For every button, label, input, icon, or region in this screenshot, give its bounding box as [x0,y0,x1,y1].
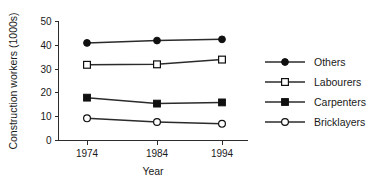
data-point [154,61,161,68]
legend-item-labourers[interactable]: Labourers [265,76,361,88]
x-axis-title: Year [142,165,164,177]
series-labourers [84,56,226,68]
x-axis-ticks: 197419841994 [76,141,234,159]
data-point [154,119,161,126]
y-axis-title: Construction workers (1000s) [7,12,19,149]
data-point [219,56,226,63]
data-point [84,61,91,68]
data-point [154,100,161,107]
data-point [219,36,226,43]
legend-marker [282,79,289,86]
y-tick-label: 40 [40,40,52,51]
y-axis-ticks: 01020304050 [40,16,58,146]
legend-label: Labourers [314,76,361,88]
legend-label: Others [314,56,346,68]
series-bricklayers [84,115,226,127]
chart-legend: OthersLabourersCarpentersBricklayers [265,56,366,128]
data-point [154,37,161,44]
y-tick-label: 0 [46,135,52,146]
series-carpenters [84,94,226,107]
legend-marker [282,59,289,66]
y-tick-label: 10 [40,111,52,122]
y-tick-label: 30 [40,64,52,75]
legend-item-others[interactable]: Others [265,56,346,68]
legend-marker [282,119,289,126]
y-tick-label: 50 [40,16,52,27]
chart-figure: 01020304050 197419841994 Construction wo… [0,0,387,184]
x-tick-label: 1984 [146,148,169,159]
data-point [219,99,226,106]
legend-marker [282,99,289,106]
data-point [84,115,91,122]
x-tick-label: 1974 [76,148,99,159]
series-others [84,36,226,46]
legend-item-carpenters[interactable]: Carpenters [265,96,366,108]
legend-item-bricklayers[interactable]: Bricklayers [265,116,365,128]
legend-label: Bricklayers [314,116,365,128]
line-chart: 01020304050 197419841994 Construction wo… [0,0,387,184]
data-point [84,40,91,47]
data-point [84,94,91,101]
series-layer [84,36,226,127]
data-point [219,120,226,127]
x-tick-label: 1994 [211,148,234,159]
legend-label: Carpenters [314,96,366,108]
y-tick-label: 20 [40,87,52,98]
